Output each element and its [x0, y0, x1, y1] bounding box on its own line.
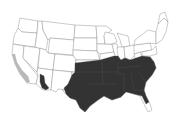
map-svg — [0, 0, 177, 119]
state-michigan — [117, 33, 130, 47]
state-north-dakota — [74, 25, 97, 38]
state-montana — [42, 21, 75, 40]
state-colorado — [53, 54, 76, 72]
state-wyoming — [48, 38, 74, 55]
state-new-york — [134, 30, 156, 45]
state-wisconsin — [104, 32, 117, 44]
us-range-map: species range map — [0, 0, 177, 119]
state-nebraska — [73, 50, 100, 60]
state-south-dakota — [73, 38, 97, 51]
state-new-england — [156, 18, 168, 44]
